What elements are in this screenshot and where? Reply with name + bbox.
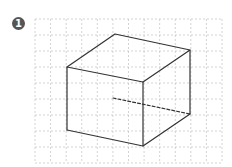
cube-top-face: [67, 34, 190, 82]
dotted-grid: [35, 19, 222, 163]
cube-hidden-edge: [113, 98, 190, 114]
cube-diagram: [0, 0, 232, 167]
cube-bottom-visible-edges: [67, 114, 190, 146]
